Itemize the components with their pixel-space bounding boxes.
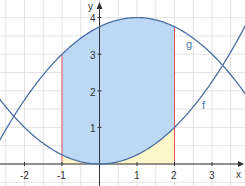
- x-tick-label: 3: [209, 170, 215, 181]
- y-tick-label: 3: [90, 50, 96, 61]
- x-axis-label: x: [236, 169, 241, 180]
- function-graph: x y g f -2 -1 1 2 3 1 2 3 4: [0, 0, 245, 186]
- y-tick-label: 2: [90, 87, 96, 98]
- y-axis-label: y: [88, 1, 93, 12]
- x-tick-label: 2: [171, 170, 177, 181]
- y-tick-label: 4: [90, 13, 96, 24]
- plot-area: x y g f -2 -1 1 2 3 1 2 3 4: [0, 0, 245, 186]
- y-axis-arrow-icon: [97, 2, 103, 9]
- x-tick-label: 1: [134, 170, 140, 181]
- x-axis-arrow-icon: [238, 161, 244, 167]
- x-tick-label: -2: [20, 170, 29, 181]
- x-tick-label: -1: [57, 170, 66, 181]
- curve-g-label: g: [186, 38, 192, 50]
- y-tick-label: 1: [90, 123, 96, 134]
